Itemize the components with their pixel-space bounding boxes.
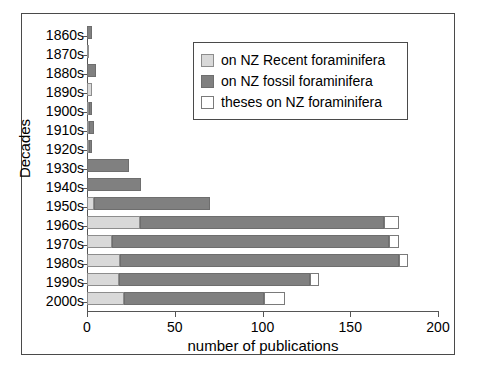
value-tick	[87, 312, 88, 317]
fossil-segment	[87, 26, 92, 39]
fossil-swatch	[201, 75, 214, 88]
recent-segment	[87, 235, 112, 248]
legend-item: theses on NZ foraminifera	[201, 92, 399, 112]
bar-row	[87, 216, 438, 235]
value-tick	[350, 312, 351, 317]
fossil-segment	[87, 178, 141, 191]
fossil-segment	[120, 254, 399, 267]
bar-row	[87, 178, 438, 197]
category-label-1980s: 1980s	[22, 254, 84, 273]
bar-row	[87, 292, 438, 311]
legend-label: on NZ fossil foraminifera	[221, 73, 373, 89]
bar-row	[87, 273, 438, 292]
category-label-1880s: 1880s	[22, 64, 84, 83]
value-tick	[263, 312, 264, 317]
theses-segment	[264, 292, 285, 305]
category-label-1990s: 1990s	[22, 273, 84, 292]
fossil-segment	[87, 159, 129, 172]
category-label-1860s: 1860s	[22, 26, 84, 45]
value-tick-label: 150	[328, 319, 372, 335]
theses-segment	[310, 273, 319, 286]
fossil-segment	[89, 121, 94, 134]
value-tick-label: 200	[416, 319, 460, 335]
chart-figure: 1860s1870s1880s1890s1900s1910s1920s1930s…	[0, 0, 478, 370]
value-tick-label: 0	[65, 319, 109, 335]
recent-swatch	[201, 54, 214, 67]
fossil-segment	[140, 216, 384, 229]
value-tick-label: 100	[241, 319, 285, 335]
legend-item: on NZ fossil foraminifera	[201, 71, 399, 91]
theses-segment	[389, 235, 400, 248]
bar-row	[87, 159, 438, 178]
bar-row	[87, 121, 438, 140]
theses-segment	[384, 216, 400, 229]
recent-segment	[87, 254, 120, 267]
y-axis-title: Decades	[16, 99, 33, 199]
fossil-segment	[112, 235, 389, 248]
bar-row	[87, 140, 438, 159]
category-label-1950s: 1950s	[22, 197, 84, 216]
legend-label: on NZ Recent foraminifera	[221, 52, 385, 68]
fossil-segment	[89, 102, 93, 115]
category-label-1960s: 1960s	[22, 216, 84, 235]
fossil-segment	[124, 292, 264, 305]
fossil-segment	[87, 64, 96, 77]
fossil-segment	[94, 197, 210, 210]
x-axis-title: number of publications	[87, 337, 439, 354]
chart-legend: on NZ Recent foraminiferaon NZ fossil fo…	[193, 42, 408, 120]
theses-segment	[399, 254, 408, 267]
recent-segment	[87, 292, 124, 305]
fossil-segment	[119, 273, 310, 286]
bar-row	[87, 197, 438, 216]
category-label-2000s: 2000s	[22, 292, 84, 311]
recent-segment	[87, 83, 92, 96]
value-tick-label: 50	[153, 319, 197, 335]
bar-row	[87, 235, 438, 254]
recent-segment	[87, 216, 140, 229]
value-tick	[175, 312, 176, 317]
category-label-1970s: 1970s	[22, 235, 84, 254]
fossil-segment	[89, 140, 93, 153]
recent-segment	[87, 273, 119, 286]
legend-item: on NZ Recent foraminifera	[201, 50, 399, 70]
recent-segment	[87, 197, 94, 210]
theses-swatch	[201, 96, 214, 109]
recent-segment	[87, 45, 89, 58]
legend-label: theses on NZ foraminifera	[221, 94, 382, 110]
bar-row	[87, 254, 438, 273]
category-label-1870s: 1870s	[22, 45, 84, 64]
value-tick	[438, 312, 439, 317]
